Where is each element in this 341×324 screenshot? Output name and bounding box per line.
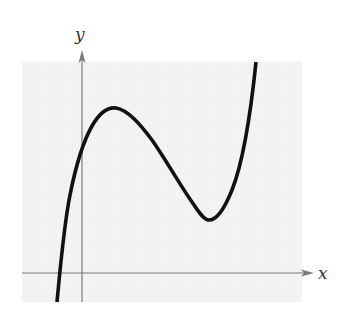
plot-background	[22, 62, 302, 302]
x-axis-label: x	[318, 263, 328, 283]
y-axis-label: y	[74, 24, 85, 44]
cubic-function-graph: x y	[0, 0, 341, 324]
